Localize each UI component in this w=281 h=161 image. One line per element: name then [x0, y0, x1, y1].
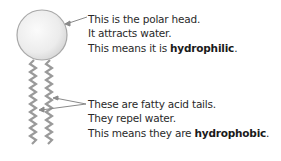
hydrophobic-term: hydrophobic — [194, 127, 266, 139]
tail-right — [46, 60, 52, 144]
fatty-acid-tails — [30, 60, 52, 144]
head-line-3: This means it is hydrophilic. — [88, 41, 237, 55]
polar-head — [17, 10, 67, 60]
tail-left — [30, 60, 36, 144]
tail-line-2: They repel water. — [88, 111, 269, 125]
hydrophilic-term: hydrophilic — [170, 42, 234, 54]
head-line-1: This is the polar head. — [88, 12, 237, 26]
tail-line-3: This means they are hydrophobic. — [88, 126, 269, 140]
polar-head-label: This is the polar head. It attracts wate… — [88, 12, 237, 55]
head-line-2: It attracts water. — [88, 26, 237, 40]
tails-label: These are fatty acid tails. They repel w… — [88, 97, 269, 140]
tail-line-1: These are fatty acid tails. — [88, 97, 269, 111]
